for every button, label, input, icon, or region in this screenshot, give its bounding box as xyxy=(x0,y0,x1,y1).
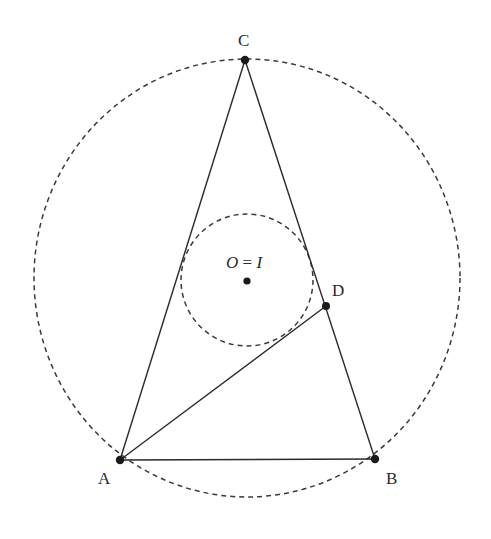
label-center: O = I xyxy=(226,253,263,272)
geometry-figure: A B C D O = I xyxy=(0,0,491,539)
segment-ad xyxy=(120,306,326,460)
label-center-eq: = xyxy=(238,253,256,272)
label-d: D xyxy=(332,281,344,300)
point-a xyxy=(116,456,124,464)
point-c xyxy=(241,56,249,64)
side-ab xyxy=(120,459,375,460)
point-d xyxy=(322,302,330,310)
side-bc xyxy=(245,60,375,459)
label-b: B xyxy=(386,469,397,488)
label-center-o: O xyxy=(226,253,238,272)
label-center-i: I xyxy=(255,253,263,272)
label-a: A xyxy=(98,469,111,488)
label-c: C xyxy=(238,31,249,50)
point-center xyxy=(243,277,250,284)
point-b xyxy=(371,455,379,463)
